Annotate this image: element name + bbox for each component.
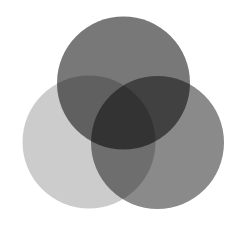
top-circle — [57, 17, 190, 150]
venn-diagram-canvas: venn-3 — [0, 0, 249, 229]
venn-diagram — [0, 0, 249, 229]
